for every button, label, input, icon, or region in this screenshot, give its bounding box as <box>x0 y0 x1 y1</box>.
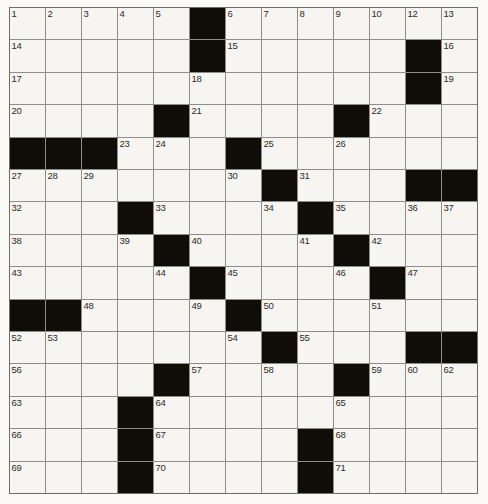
crossword-cell[interactable] <box>190 170 225 201</box>
crossword-cell[interactable] <box>298 138 333 169</box>
crossword-cell[interactable]: 17 <box>10 73 45 104</box>
crossword-cell[interactable] <box>262 462 297 493</box>
crossword-cell[interactable] <box>82 105 117 136</box>
crossword-cell[interactable]: 62 <box>442 364 477 395</box>
crossword-cell[interactable] <box>370 138 405 169</box>
crossword-cell[interactable]: 66 <box>10 429 45 460</box>
crossword-cell[interactable] <box>442 429 477 460</box>
crossword-cell[interactable] <box>226 364 261 395</box>
crossword-cell[interactable]: 63 <box>10 397 45 428</box>
crossword-cell[interactable]: 39 <box>118 235 153 266</box>
crossword-cell[interactable]: 40 <box>190 235 225 266</box>
crossword-cell[interactable] <box>370 462 405 493</box>
crossword-cell[interactable]: 41 <box>298 235 333 266</box>
crossword-cell[interactable] <box>82 40 117 71</box>
crossword-cell[interactable]: 24 <box>154 138 189 169</box>
crossword-cell[interactable] <box>298 105 333 136</box>
crossword-cell[interactable] <box>118 105 153 136</box>
crossword-cell[interactable] <box>46 40 81 71</box>
crossword-cell[interactable] <box>82 429 117 460</box>
crossword-cell[interactable] <box>118 267 153 298</box>
crossword-cell[interactable] <box>442 397 477 428</box>
crossword-cell[interactable]: 33 <box>154 202 189 233</box>
crossword-cell[interactable]: 68 <box>334 429 369 460</box>
crossword-cell[interactable] <box>46 73 81 104</box>
crossword-cell[interactable]: 59 <box>370 364 405 395</box>
crossword-cell[interactable]: 4 <box>118 8 153 39</box>
crossword-cell[interactable] <box>226 462 261 493</box>
crossword-cell[interactable] <box>298 300 333 331</box>
crossword-cell[interactable]: 64 <box>154 397 189 428</box>
crossword-cell[interactable] <box>226 429 261 460</box>
crossword-cell[interactable] <box>118 170 153 201</box>
crossword-cell[interactable]: 3 <box>82 8 117 39</box>
crossword-cell[interactable]: 9 <box>334 8 369 39</box>
crossword-cell[interactable] <box>82 267 117 298</box>
crossword-cell[interactable]: 57 <box>190 364 225 395</box>
crossword-cell[interactable] <box>154 332 189 363</box>
crossword-cell[interactable]: 56 <box>10 364 45 395</box>
crossword-cell[interactable] <box>370 40 405 71</box>
crossword-cell[interactable] <box>46 105 81 136</box>
crossword-cell[interactable] <box>262 235 297 266</box>
crossword-cell[interactable] <box>46 235 81 266</box>
crossword-cell[interactable] <box>442 267 477 298</box>
crossword-cell[interactable] <box>442 138 477 169</box>
crossword-cell[interactable]: 37 <box>442 202 477 233</box>
crossword-cell[interactable] <box>298 364 333 395</box>
crossword-cell[interactable] <box>262 105 297 136</box>
crossword-cell[interactable]: 38 <box>10 235 45 266</box>
crossword-cell[interactable]: 8 <box>298 8 333 39</box>
crossword-cell[interactable]: 47 <box>406 267 441 298</box>
crossword-cell[interactable]: 7 <box>262 8 297 39</box>
crossword-cell[interactable] <box>226 73 261 104</box>
crossword-cell[interactable]: 45 <box>226 267 261 298</box>
crossword-cell[interactable]: 48 <box>82 300 117 331</box>
crossword-cell[interactable]: 71 <box>334 462 369 493</box>
crossword-cell[interactable] <box>82 462 117 493</box>
crossword-cell[interactable]: 14 <box>10 40 45 71</box>
crossword-cell[interactable] <box>154 170 189 201</box>
crossword-cell[interactable] <box>298 40 333 71</box>
crossword-cell[interactable] <box>262 429 297 460</box>
crossword-cell[interactable] <box>442 462 477 493</box>
crossword-cell[interactable] <box>82 397 117 428</box>
crossword-cell[interactable] <box>262 267 297 298</box>
crossword-cell[interactable] <box>226 235 261 266</box>
crossword-cell[interactable] <box>46 462 81 493</box>
crossword-cell[interactable] <box>118 40 153 71</box>
crossword-cell[interactable] <box>334 73 369 104</box>
crossword-cell[interactable]: 54 <box>226 332 261 363</box>
crossword-cell[interactable] <box>190 462 225 493</box>
crossword-cell[interactable]: 5 <box>154 8 189 39</box>
crossword-cell[interactable] <box>82 332 117 363</box>
crossword-cell[interactable] <box>370 332 405 363</box>
crossword-cell[interactable] <box>46 397 81 428</box>
crossword-cell[interactable] <box>406 138 441 169</box>
crossword-cell[interactable]: 55 <box>298 332 333 363</box>
crossword-grid[interactable]: 1234567891012131415161718192021222324252… <box>9 7 478 494</box>
crossword-cell[interactable]: 36 <box>406 202 441 233</box>
crossword-cell[interactable]: 18 <box>190 73 225 104</box>
crossword-cell[interactable]: 30 <box>226 170 261 201</box>
crossword-cell[interactable] <box>406 462 441 493</box>
crossword-cell[interactable]: 49 <box>190 300 225 331</box>
crossword-cell[interactable]: 13 <box>442 8 477 39</box>
crossword-cell[interactable]: 25 <box>262 138 297 169</box>
crossword-cell[interactable] <box>262 73 297 104</box>
crossword-cell[interactable] <box>370 170 405 201</box>
crossword-cell[interactable] <box>298 397 333 428</box>
crossword-cell[interactable]: 52 <box>10 332 45 363</box>
crossword-cell[interactable] <box>370 202 405 233</box>
crossword-cell[interactable] <box>46 202 81 233</box>
crossword-cell[interactable] <box>190 332 225 363</box>
crossword-cell[interactable] <box>262 40 297 71</box>
crossword-cell[interactable] <box>370 73 405 104</box>
crossword-cell[interactable] <box>82 73 117 104</box>
crossword-cell[interactable] <box>118 332 153 363</box>
crossword-cell[interactable] <box>154 300 189 331</box>
crossword-cell[interactable]: 2 <box>46 8 81 39</box>
crossword-cell[interactable] <box>406 105 441 136</box>
crossword-cell[interactable] <box>226 105 261 136</box>
crossword-cell[interactable]: 60 <box>406 364 441 395</box>
